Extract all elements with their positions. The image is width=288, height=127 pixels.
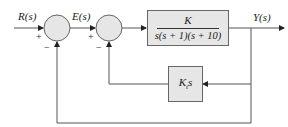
error-label: E(s) [72, 11, 90, 22]
rate-feedback-gain: Kts [179, 76, 193, 91]
sum1-plus-sign: + [36, 32, 42, 42]
forward-block-denominator: s(s + 1)(s + 10) [155, 29, 222, 42]
input-label: R(s) [18, 11, 36, 22]
summing-junction-1 [44, 15, 70, 41]
gain-symbol: K [179, 76, 186, 88]
inner-feedback-return-line [109, 42, 168, 84]
sum2-plus-sign: + [88, 32, 94, 42]
forward-transfer-function-block: K s(s + 1)(s + 10) [147, 10, 229, 46]
output-label: Y(s) [253, 12, 271, 23]
rate-feedback-block: Kts [168, 66, 203, 102]
sum1-minus-sign: − [44, 43, 50, 53]
block-diagram-canvas [0, 0, 288, 127]
laplace-variable: s [188, 76, 192, 88]
summing-junction-2 [96, 15, 122, 41]
sum2-minus-sign: − [96, 43, 102, 53]
forward-block-numerator: K [184, 15, 191, 28]
outer-feedback-line [57, 42, 251, 123]
